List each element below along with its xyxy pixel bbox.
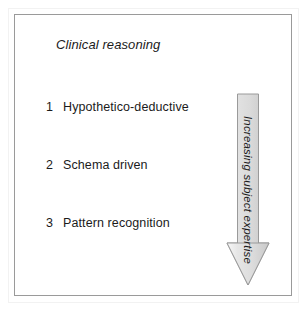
step-label: Hypothetico-deductive [63,100,189,114]
list-item: 1 Hypothetico-deductive [46,100,216,158]
list-item: 3 Pattern recognition [46,216,216,274]
down-arrow-icon [226,93,270,287]
step-label: Schema driven [63,158,148,172]
step-number: 1 [46,100,63,114]
diagram-title: Clinical reasoning [56,37,160,52]
step-number: 3 [46,216,63,230]
step-label: Pattern recognition [63,216,170,230]
reasoning-steps-list: 1 Hypothetico-deductive 2 Schema driven … [46,100,216,274]
list-item: 2 Schema driven [46,158,216,216]
step-number: 2 [46,158,63,172]
clinical-reasoning-diagram: Clinical reasoning 1 Hypothetico-deducti… [0,0,307,312]
